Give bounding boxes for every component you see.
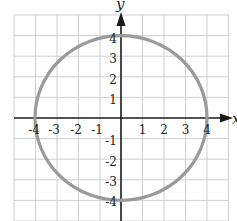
y-tick-labels: 4 3 2 1 -1 -2 -3 -4 (105, 32, 117, 209)
svg-text:-1: -1 (91, 123, 103, 137)
axes (14, 20, 226, 221)
svg-text:2: 2 (109, 73, 117, 87)
svg-text:-2: -2 (105, 155, 117, 169)
y-axis-label: y (115, 0, 125, 13)
svg-text:-2: -2 (70, 123, 82, 137)
svg-text:1: 1 (139, 123, 147, 137)
svg-text:2: 2 (160, 123, 168, 137)
svg-text:3: 3 (182, 123, 190, 137)
svg-text:3: 3 (109, 52, 117, 66)
svg-text:4: 4 (109, 32, 117, 46)
svg-text:-3: -3 (48, 123, 60, 137)
svg-text:-4: -4 (105, 195, 117, 209)
x-tick-labels: -4 -3 -2 -1 1 2 3 4 (28, 123, 211, 137)
svg-text:-1: -1 (105, 134, 117, 148)
y-axis-arrow-icon (117, 12, 126, 26)
svg-text:-4: -4 (28, 123, 40, 137)
circle-graph: y x -4 -3 -2 -1 1 2 3 4 4 3 2 1 -1 -2 -3… (0, 0, 237, 221)
svg-text:4: 4 (203, 123, 211, 137)
x-axis-label: x (232, 110, 237, 128)
svg-text:1: 1 (109, 93, 117, 107)
svg-text:-3: -3 (105, 175, 117, 189)
